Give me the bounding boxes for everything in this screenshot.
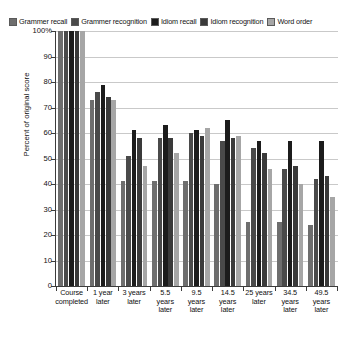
legend-swatch-icon: [71, 18, 79, 26]
bar-group: [87, 31, 118, 286]
bar: [325, 176, 330, 286]
bar: [231, 138, 236, 286]
bar: [268, 169, 273, 286]
legend-swatch-icon: [267, 18, 275, 26]
bar: [214, 184, 219, 286]
bar: [80, 31, 85, 286]
bar: [101, 85, 106, 286]
bar: [90, 100, 95, 286]
bar-group: [212, 31, 243, 286]
bar: [330, 197, 335, 286]
y-axis-tick-labels: 0102030405060708090100%: [16, 31, 52, 286]
bar: [262, 153, 267, 286]
y-tick-mark: [51, 108, 55, 109]
y-tick-mark: [51, 184, 55, 185]
legend-item-0: Grammer recall: [9, 17, 67, 26]
legend-item-label: Word order: [277, 17, 312, 26]
x-tick-mark: [56, 287, 57, 291]
legend-swatch-icon: [9, 18, 17, 26]
y-tick-label: 20: [16, 231, 52, 239]
bar: [236, 136, 241, 286]
y-tick-label: 80: [16, 78, 52, 86]
chart-legend: Grammer recallGrammer recognitionIdiom r…: [9, 15, 339, 28]
y-tick-label: 70: [16, 104, 52, 112]
bar: [282, 169, 287, 286]
bar: [319, 141, 324, 286]
bar: [58, 31, 63, 286]
bar: [308, 225, 313, 286]
bar-group: [181, 31, 212, 286]
bar: [126, 156, 131, 286]
x-tick-label: 49.5yearslater: [302, 289, 341, 315]
y-tick-mark: [51, 235, 55, 236]
x-tick-mark: [275, 287, 276, 291]
y-tick-mark: [51, 210, 55, 211]
y-tick-label: 30: [16, 206, 52, 214]
bar: [158, 138, 163, 286]
y-tick-mark: [51, 57, 55, 58]
x-tick-mark: [87, 287, 88, 291]
bar: [95, 92, 100, 286]
bar: [257, 141, 262, 286]
y-tick-label: 10: [16, 257, 52, 265]
bar: [64, 31, 69, 286]
y-tick-label: 60: [16, 129, 52, 137]
bar: [168, 138, 173, 286]
x-tick-label-line: later: [302, 306, 341, 315]
bar: [314, 179, 319, 286]
legend-item-2: Idiom recall: [151, 17, 197, 26]
legend-swatch-icon: [200, 18, 208, 26]
x-tick-mark: [243, 287, 244, 291]
bar: [293, 166, 298, 286]
bar: [205, 128, 210, 286]
bar-group: [150, 31, 181, 286]
y-tick-mark: [51, 261, 55, 262]
bar-group: [306, 31, 337, 286]
bar: [163, 125, 168, 286]
x-tick-mark: [181, 287, 182, 291]
legend-item-4: Word order: [267, 17, 312, 26]
x-tick-mark: [337, 287, 338, 291]
bar: [220, 141, 225, 286]
bar: [111, 100, 116, 286]
bar-group: [56, 31, 87, 286]
bar-group: [275, 31, 306, 286]
y-tick-mark: [51, 159, 55, 160]
x-tick-mark: [150, 287, 151, 291]
legend-item-1: Grammer recognition: [71, 17, 147, 26]
bar: [137, 138, 142, 286]
bar: [288, 141, 293, 286]
bar: [299, 184, 304, 286]
bar: [106, 97, 111, 286]
legend-swatch-icon: [151, 18, 159, 26]
bar: [183, 181, 188, 286]
x-tick-label-line: later: [208, 306, 247, 315]
x-tick-mark: [118, 287, 119, 291]
bar: [200, 136, 205, 286]
bar: [132, 130, 137, 286]
bar: [189, 133, 194, 286]
legend-item-label: Idiom recall: [161, 17, 197, 26]
bar: [194, 130, 199, 286]
bar: [152, 181, 157, 286]
bar: [75, 31, 80, 286]
bar: [69, 31, 74, 286]
y-tick-mark: [51, 82, 55, 83]
bar: [225, 120, 230, 286]
y-tick-label: 40: [16, 180, 52, 188]
y-tick-mark: [51, 31, 55, 32]
bar: [277, 222, 282, 286]
y-tick-label: 50: [16, 155, 52, 163]
y-tick-mark: [51, 133, 55, 134]
x-tick-mark: [212, 287, 213, 291]
bar: [174, 153, 179, 286]
bar-series-layer: [56, 31, 337, 286]
y-tick-mark: [51, 286, 55, 287]
legend-item-label: Grammer recognition: [81, 17, 147, 26]
bar-group: [243, 31, 274, 286]
legend-item-label: Grammer recall: [19, 17, 67, 26]
bar: [121, 181, 126, 286]
y-tick-label: 100%: [16, 27, 52, 35]
bar: [251, 148, 256, 286]
bar: [143, 166, 148, 286]
